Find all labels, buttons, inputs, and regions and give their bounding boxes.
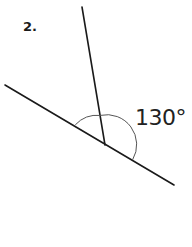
straight-line: [5, 85, 174, 185]
angle-arc-left: [75, 115, 100, 125]
angle-ray: [82, 7, 105, 145]
geometry-problem-canvas: 2. 130°: [0, 0, 192, 247]
angle-arc-130: [100, 115, 137, 160]
angle-measure-label: 130°: [135, 107, 186, 129]
